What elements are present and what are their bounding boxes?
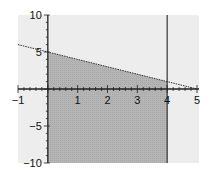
x-tick-label: 4 (164, 94, 170, 106)
y-tick-label: −5 (29, 120, 42, 132)
chart: −112345−10−5510 (0, 0, 211, 175)
x-tick-label: 2 (104, 94, 110, 106)
x-tick-label: 5 (194, 94, 200, 106)
y-tick-label: 5 (36, 46, 42, 58)
y-tick-label: 10 (30, 9, 42, 21)
y-tick-label: −10 (23, 157, 42, 169)
x-tick-label: 3 (134, 94, 140, 106)
x-tick-label: 1 (75, 94, 81, 106)
x-tick-label: −1 (12, 94, 25, 106)
